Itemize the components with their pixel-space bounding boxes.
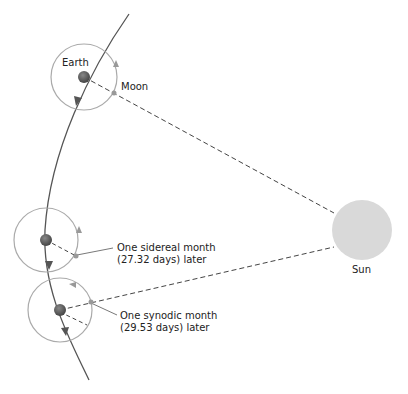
- moon-orbit-arrow-icon: [69, 282, 76, 288]
- earth: [40, 234, 52, 246]
- moon-orbit-arrow-icon: [76, 226, 82, 233]
- moon: [74, 254, 79, 259]
- callout-line: [77, 248, 113, 255]
- position-sidereal: [14, 208, 113, 272]
- position-initial: [51, 44, 334, 213]
- synodic-label-line2: (29.53 days) later: [120, 322, 217, 334]
- sun: [332, 200, 392, 260]
- earth-sun-line: [84, 77, 334, 213]
- earth: [54, 304, 66, 316]
- earth-label: Earth: [62, 57, 89, 69]
- callout-line: [91, 303, 117, 315]
- sidereal-label-line2: (27.32 days) later: [117, 254, 216, 266]
- sidereal-label: One sidereal month (27.32 days) later: [117, 242, 216, 266]
- sidereal-label-line1: One sidereal month: [117, 242, 216, 254]
- moon-label: Moon: [121, 81, 148, 93]
- sun-label: Sun: [352, 264, 371, 276]
- synodic-label-line1: One synodic month: [120, 310, 217, 322]
- earth: [78, 71, 90, 83]
- moon: [89, 300, 94, 305]
- synodic-label: One synodic month (29.53 days) later: [120, 310, 217, 334]
- moon: [112, 91, 117, 96]
